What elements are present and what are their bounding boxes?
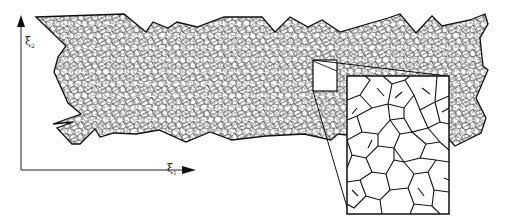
inset-source-box	[313, 60, 337, 91]
voronoi-mesh-figure	[0, 0, 510, 224]
magnified-inset	[347, 76, 449, 214]
x-axis-label-index: 1	[173, 169, 177, 176]
x-axis-arrow-icon	[182, 166, 196, 174]
y-axis-label-index: 2	[31, 42, 35, 49]
y-axis-label: ξ2	[25, 35, 35, 49]
x-axis-label: ξ1	[167, 162, 177, 176]
y-axis-arrow-icon	[17, 15, 25, 27]
